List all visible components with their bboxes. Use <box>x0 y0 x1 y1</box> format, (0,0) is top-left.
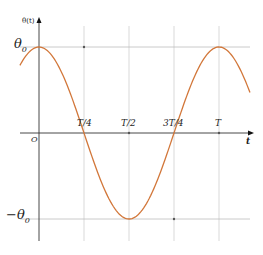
tick-t-half: T/2 <box>121 118 136 128</box>
x-axis-title: t <box>246 136 250 146</box>
origin-label: O <box>31 135 38 144</box>
tick-t-three-quarter: 3T/4 <box>163 118 184 128</box>
neg-theta0-subscript: 0 <box>25 216 30 225</box>
neg-theta0-label: −θ0 <box>6 207 30 225</box>
x-axis-arrow-icon <box>248 131 254 136</box>
theta0-symbol: θ <box>14 36 22 51</box>
y-axis-title: θ(t) <box>22 17 35 25</box>
neg-theta0-symbol: −θ <box>6 207 25 222</box>
y-axis-arrow-icon <box>37 17 42 23</box>
axes <box>20 22 250 241</box>
theta0-subscript: 0 <box>22 45 27 54</box>
theta0-label: θ0 <box>14 36 27 54</box>
tick-t-quarter: T/4 <box>77 118 92 128</box>
tick-t-full: T <box>215 118 221 128</box>
